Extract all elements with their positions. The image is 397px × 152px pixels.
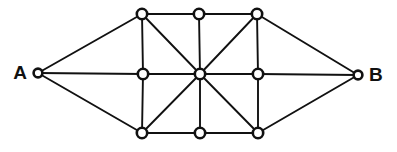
graph-edge-tm-c xyxy=(199,14,200,74)
graph-edge-ml-bl xyxy=(142,74,143,133)
graph-edge-a-tl xyxy=(38,14,142,73)
graph-edge-tr-c xyxy=(200,14,257,74)
graph-edge-tl-ml xyxy=(142,14,143,74)
graph-edge-c-br xyxy=(200,74,258,133)
graph-node-tm[interactable] xyxy=(194,9,204,19)
graph-node-tr[interactable] xyxy=(252,9,262,19)
graph-edge-a-bl xyxy=(38,73,142,133)
graph-edge-a-ml xyxy=(38,73,143,74)
graph-edge-br-b xyxy=(258,75,358,133)
graph-node-bl[interactable] xyxy=(137,128,147,138)
graph-node-a[interactable] xyxy=(34,69,43,78)
graph-node-label-a: A xyxy=(13,62,27,83)
graph-canvas: AB xyxy=(0,0,397,152)
graph-node-mr[interactable] xyxy=(253,69,263,79)
graph-node-label-b: B xyxy=(369,64,383,85)
graph-edge-mr-b xyxy=(258,74,358,75)
graph-node-tl[interactable] xyxy=(137,9,147,19)
graph-node-ml[interactable] xyxy=(138,69,148,79)
graph-edge-tr-mr xyxy=(257,14,258,74)
graph-diagram: AB xyxy=(0,0,397,152)
graph-edge-c-bl xyxy=(142,74,200,133)
graph-node-b[interactable] xyxy=(354,71,363,80)
graph-edge-tl-c xyxy=(142,14,200,74)
graph-edge-tr-b xyxy=(257,14,358,75)
graph-node-br[interactable] xyxy=(253,128,263,138)
graph-node-bm[interactable] xyxy=(195,128,205,138)
graph-node-c[interactable] xyxy=(195,69,205,79)
